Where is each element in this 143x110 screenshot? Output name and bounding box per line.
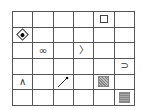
cell-3-4 <box>94 59 114 75</box>
cell-4-0: ∧ <box>13 75 33 91</box>
diagonal-pin-icon <box>57 76 69 88</box>
hatched-square-icon <box>98 76 109 87</box>
cell-4-5 <box>115 75 135 91</box>
cell-0-1 <box>33 12 53 28</box>
cell-1-5 <box>115 28 135 44</box>
cell-1-3 <box>74 28 94 44</box>
cell-0-2 <box>54 12 74 28</box>
symbol-grid: ∞ 〉 ⊃ ∧ <box>12 11 135 106</box>
cell-5-5 <box>115 90 135 106</box>
angle-bracket-icon: 〉 <box>79 46 89 56</box>
cell-0-0 <box>13 12 33 28</box>
cell-5-0 <box>13 90 33 106</box>
logical-and-icon: ∧ <box>19 77 26 87</box>
cell-0-3 <box>74 12 94 28</box>
striped-square-icon <box>119 92 130 103</box>
cell-1-0 <box>13 28 33 44</box>
cell-3-2 <box>54 59 74 75</box>
cell-2-5 <box>115 43 135 59</box>
cell-2-3: 〉 <box>74 43 94 59</box>
cell-0-4 <box>94 12 114 28</box>
cell-2-4 <box>94 43 114 59</box>
cell-4-3 <box>74 75 94 91</box>
cell-1-4 <box>94 28 114 44</box>
cell-4-2 <box>54 75 74 91</box>
infinity-icon: ∞ <box>39 46 47 56</box>
square-outline-icon <box>100 15 108 23</box>
cell-2-0 <box>13 43 33 59</box>
cell-4-4 <box>94 75 114 91</box>
cell-5-4 <box>94 90 114 106</box>
cell-1-1 <box>33 28 53 44</box>
cell-3-1 <box>33 59 53 75</box>
diamond-dot-icon <box>16 29 29 42</box>
cell-4-1 <box>33 75 53 91</box>
cell-2-1: ∞ <box>33 43 53 59</box>
cell-2-2 <box>54 43 74 59</box>
cell-3-5: ⊃ <box>115 59 135 75</box>
cell-5-1 <box>33 90 53 106</box>
cell-0-5 <box>115 12 135 28</box>
cell-5-3 <box>74 90 94 106</box>
superset-icon: ⊃ <box>120 61 128 71</box>
cell-3-3 <box>74 59 94 75</box>
cell-3-0 <box>13 59 33 75</box>
cell-5-2 <box>54 90 74 106</box>
cell-1-2 <box>54 28 74 44</box>
